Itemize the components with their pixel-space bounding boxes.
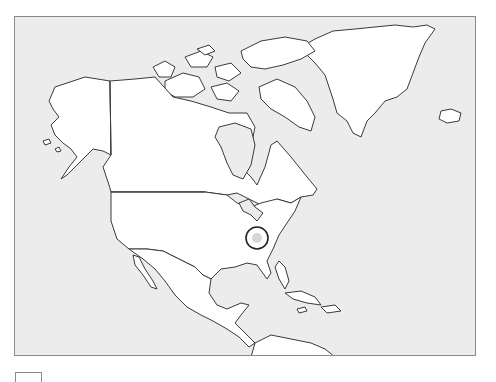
north-america-map	[15, 17, 476, 356]
legend-box	[15, 372, 42, 382]
florida	[275, 261, 289, 289]
marker-dot	[252, 233, 262, 243]
alaska	[49, 77, 111, 179]
aleutian-island-b	[55, 147, 61, 152]
arctic-island-b	[215, 63, 241, 81]
greenland	[301, 25, 435, 137]
banks-island	[153, 61, 175, 77]
map-frame[interactable]	[14, 16, 476, 356]
jamaica	[297, 307, 307, 313]
location-marker[interactable]	[246, 227, 268, 249]
iceland	[439, 109, 461, 123]
south-america	[251, 335, 335, 356]
baffin-island	[259, 79, 315, 131]
ellesmere-island	[241, 37, 315, 69]
arctic-island-c	[211, 83, 239, 101]
aleutian-island-a	[43, 139, 51, 145]
cuba	[285, 291, 321, 305]
hispaniola	[321, 305, 341, 313]
